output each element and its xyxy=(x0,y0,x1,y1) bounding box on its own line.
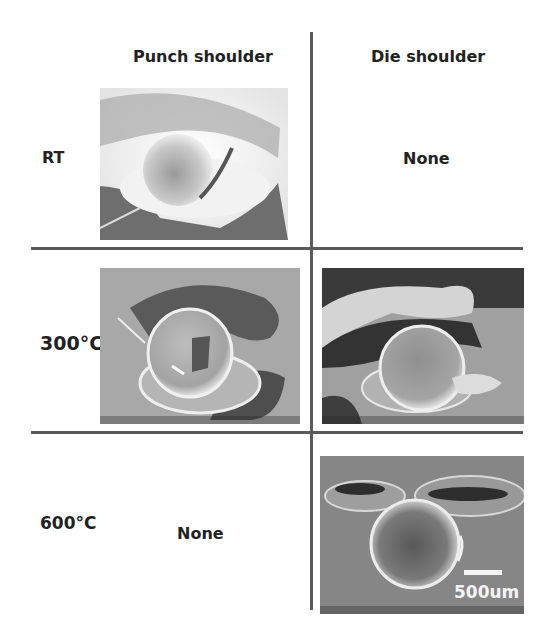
column-header-die-shoulder: Die shoulder xyxy=(371,47,485,66)
rt-die-none-text: None xyxy=(403,149,450,168)
sem-info-bar xyxy=(100,416,300,424)
row-label-300c: 300°C xyxy=(40,332,103,354)
scale-bar-label: 500um xyxy=(454,582,519,602)
row-label-rt: RT xyxy=(42,148,65,167)
column-header-punch-shoulder: Punch shoulder xyxy=(133,47,273,66)
sem-image-rt-punch xyxy=(100,88,288,240)
sem-info-bar xyxy=(322,416,524,424)
column-divider xyxy=(310,32,313,610)
sem-info-bar xyxy=(320,606,524,614)
600c-punch-none-text: None xyxy=(177,524,224,543)
sem-image-300c-punch xyxy=(100,268,300,424)
sem-image-300c-die xyxy=(322,268,524,424)
row-label-600c: 600°C xyxy=(40,513,96,533)
sem-image-600c-die: 500um xyxy=(320,456,524,614)
scale-bar xyxy=(464,570,502,575)
row-divider-2 xyxy=(31,431,523,434)
row-divider-1 xyxy=(31,247,523,250)
